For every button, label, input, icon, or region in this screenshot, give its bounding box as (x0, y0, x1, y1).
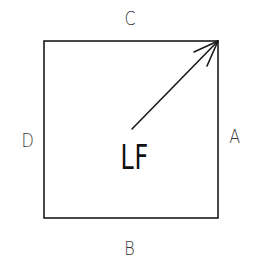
center-label: LF (121, 138, 149, 177)
arrow-to-corner (132, 41, 218, 129)
side-label-bottom: B (124, 236, 134, 260)
side-label-right: A (229, 124, 240, 148)
diagram-canvas (0, 0, 258, 265)
side-label-top: C (124, 6, 135, 30)
side-label-left: D (22, 128, 34, 152)
